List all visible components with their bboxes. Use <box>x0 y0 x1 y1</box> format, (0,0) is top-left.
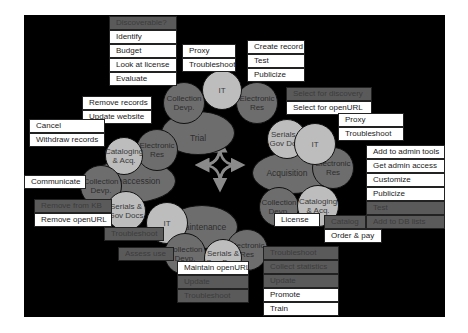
task-label: Update <box>263 274 339 288</box>
task-label: Troubleshoot <box>263 246 339 260</box>
node-label: Serials & Gov Docs <box>107 202 145 220</box>
node-label: Collection Devp. <box>164 94 204 112</box>
task-label: Maintain openURL <box>177 261 249 275</box>
task-label: Troubleshoot <box>338 127 404 141</box>
task-label: Budget <box>109 44 177 58</box>
task-label: Proxy <box>338 113 404 127</box>
node-deacc-serials: Serials & Gov Docs <box>106 191 146 231</box>
task-label: Select for discovery <box>286 87 372 101</box>
task-label: Cancel <box>29 119 105 133</box>
task-label: License <box>274 213 320 227</box>
task-label: Troubleshoot <box>182 58 236 72</box>
diagram-canvas: Trial Collection Devp. Electronic Res IT… <box>24 15 445 317</box>
task-label: Remove records <box>82 96 152 110</box>
task-label: Add to DB lists <box>366 215 445 229</box>
task-label: Order & pay <box>324 229 382 243</box>
task-label: Add to admin tools <box>366 145 445 159</box>
node-label: IT <box>218 86 225 95</box>
node-trial-electronic: Electronic Res <box>236 82 278 124</box>
task-label: Remove openURL <box>34 213 112 227</box>
node-acq-it: IT <box>294 123 336 165</box>
task-label: Identify <box>109 30 177 44</box>
task-label: Proxy <box>182 44 236 58</box>
task-label: Promote <box>263 288 339 302</box>
node-trial-it: IT <box>202 70 242 110</box>
task-label: Withdraw records <box>29 133 105 147</box>
task-label: Discoverable? <box>109 16 177 30</box>
task-label: Assess use <box>118 247 174 261</box>
task-label: Train <box>263 302 339 316</box>
task-label: Test <box>366 201 445 215</box>
node-trial-collection: Collection Devp. <box>163 82 205 124</box>
task-label: Communicate <box>24 175 86 189</box>
task-label: Publicize <box>247 68 305 82</box>
node-label: Collection Devp. <box>81 177 121 195</box>
task-label: Troubleshoot <box>177 289 249 303</box>
task-label: Publicize <box>366 187 445 201</box>
task-label: Update <box>177 275 249 289</box>
task-label: Remove from KB <box>34 199 112 213</box>
task-label: Catalog <box>324 215 366 229</box>
task-label: Create record <box>247 40 305 54</box>
task-label: Get admin access <box>366 159 445 173</box>
node-label: Cataloging & Acq. <box>105 147 143 165</box>
task-label: Evaluate <box>109 72 177 86</box>
node-label: Electronic Res <box>237 94 277 112</box>
task-label: Look at license <box>109 58 177 72</box>
task-label: Customize <box>366 173 445 187</box>
node-label: IT <box>311 140 318 149</box>
task-label: Test <box>247 54 305 68</box>
stage-trial-label: Trial <box>190 133 206 143</box>
task-label: Troubleshoot <box>104 227 164 241</box>
task-label: Collect statistics <box>263 260 339 274</box>
node-label: IT <box>163 219 170 228</box>
stage-acquisition-label: Acquisition <box>266 168 307 178</box>
